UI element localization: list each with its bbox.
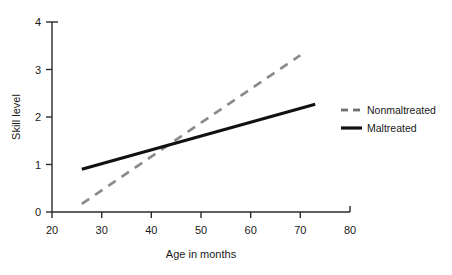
y-tick-label-4: 4 xyxy=(35,16,41,28)
x-tick-label-30: 30 xyxy=(96,224,108,236)
x-axis-title: Age in months xyxy=(166,248,237,260)
y-tick-label-3: 3 xyxy=(35,64,41,76)
y-axis-tick-labels: 0 1 2 3 4 xyxy=(35,16,41,218)
chart-legend: Nonmaltreated Maltreated xyxy=(341,104,436,134)
axes-group xyxy=(52,22,350,212)
y-tick-label-2: 2 xyxy=(35,111,41,123)
x-tick-label-60: 60 xyxy=(245,224,257,236)
series-line-nonmaltreated xyxy=(82,55,300,204)
x-tick-label-80: 80 xyxy=(344,224,356,236)
x-tick-label-70: 70 xyxy=(294,224,306,236)
legend-label-nonmaltreated: Nonmaltreated xyxy=(367,104,436,116)
skill-level-line-chart: 0 1 2 3 4 20 30 40 50 60 70 80 xyxy=(0,0,452,275)
y-axis-ticks xyxy=(46,22,52,212)
x-tick-label-20: 20 xyxy=(46,224,58,236)
x-tick-label-40: 40 xyxy=(145,224,157,236)
x-axis-tick-labels: 20 30 40 50 60 70 80 xyxy=(46,224,356,236)
x-tick-label-50: 50 xyxy=(195,224,207,236)
x-axis-ticks xyxy=(52,212,300,218)
axis-lines xyxy=(52,22,350,212)
series-line-maltreated xyxy=(82,104,315,169)
legend-label-maltreated: Maltreated xyxy=(367,122,417,134)
figure-container: 0 1 2 3 4 20 30 40 50 60 70 80 xyxy=(0,0,452,275)
y-tick-label-1: 1 xyxy=(35,159,41,171)
y-axis-title: Skill level xyxy=(10,94,22,140)
y-tick-label-0: 0 xyxy=(35,206,41,218)
